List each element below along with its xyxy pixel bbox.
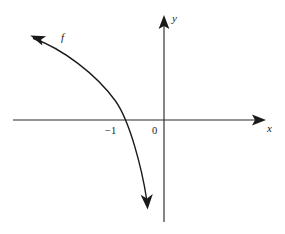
- x-tick-label-zero: 0: [152, 125, 157, 136]
- x-axis-label: x: [266, 122, 272, 134]
- curve-start-arrow-icon: [30, 35, 46, 45]
- function-curve: [34, 39, 147, 200]
- math-graph-figure: y x f −1 0: [0, 0, 285, 234]
- curve-label-f: f: [61, 31, 66, 43]
- x-tick-label-minus-one: −1: [105, 125, 116, 136]
- graph-canvas: y x f −1 0: [0, 0, 285, 234]
- y-axis-label: y: [171, 12, 177, 24]
